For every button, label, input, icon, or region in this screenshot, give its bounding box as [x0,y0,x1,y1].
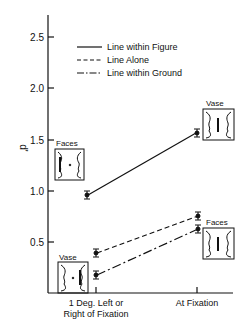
series-line-within-ground [97,229,198,275]
y-axis-label: d' [18,144,29,152]
series-line-alone [97,216,198,253]
x-tick-label-1b: Right of Fixation [63,309,128,319]
legend-label: Line Alone [107,55,149,65]
data-point [195,212,201,220]
y-tick-label: 0.5 [30,237,44,248]
faces-vase-illusion-icon [58,262,88,293]
y-tick-label: 2.5 [30,32,44,43]
data-point [195,225,201,233]
data-point [93,249,99,257]
series-line-within-figure [88,133,196,195]
chart: 2.5 2.0 1.5 1.0 0.5 d' 1 Deg. Left or Ri… [0,0,248,329]
legend-label: Line within Ground [107,68,182,78]
faces-vase-illusion-icon [203,228,234,259]
y-tick-label: 1.5 [30,135,44,146]
data-point [84,191,90,199]
y-tick-label: 1.0 [30,186,44,197]
inset-label-faces: Faces [206,218,228,227]
legend: Line within Figure Line Alone Line withi… [77,42,182,78]
y-tick-label: 2.0 [30,83,44,94]
inset-label-vase: Vase [59,253,77,262]
data-point [93,271,99,279]
inset-label-vase: Vase [206,99,224,108]
faces-vase-illusion-icon [55,149,84,180]
data-point [194,129,200,137]
x-tick-label-2: At Fixation [176,298,219,308]
legend-label: Line within Figure [107,42,178,52]
inset-label-faces: Faces [56,139,78,148]
x-axis [48,287,233,293]
x-tick-label-1a: 1 Deg. Left or [69,298,124,308]
faces-vase-illusion-icon [203,109,234,140]
y-axis [48,15,54,293]
